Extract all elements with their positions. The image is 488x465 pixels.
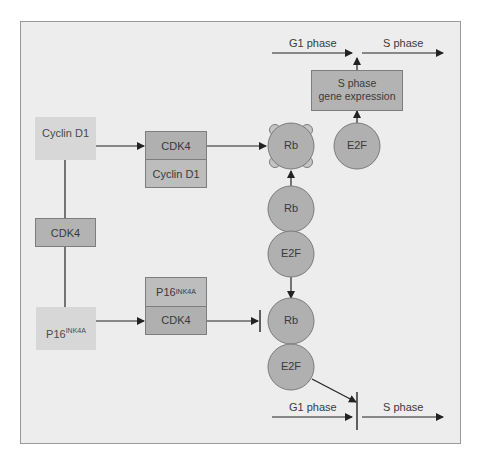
complex-cdk4-cell: CDK4: [146, 132, 206, 159]
top-g1-label: G1 phase: [289, 37, 337, 49]
cyclin-d1-box: Cyclin D1: [35, 117, 96, 160]
cyclin-d1-label: Cyclin D1: [42, 127, 89, 139]
rb-phosphorylated-label: Rb: [268, 139, 314, 151]
p16-label: P16INK4A: [46, 327, 86, 340]
rb-mid-label: Rb: [268, 202, 314, 214]
complex-cyclin-cell: Cyclin D1: [146, 159, 206, 187]
top-s-label: S phase: [383, 37, 423, 49]
gene-expression-line2: gene expression: [312, 90, 402, 103]
complex-p16-cell: P16INK4A: [146, 278, 206, 306]
e2f-mid-label: E2F: [268, 247, 314, 259]
complex-cdk4-cell-2: CDK4: [146, 306, 206, 335]
cdk4-cyclin-complex: CDK4 Cyclin D1: [145, 131, 207, 188]
cdk4-box: CDK4: [35, 218, 96, 247]
p16-box: P16INK4A: [36, 307, 96, 350]
e2f-bottom-label: E2F: [268, 360, 314, 372]
cdk4-label: CDK4: [51, 227, 80, 239]
gene-expression-box: S phase gene expression: [311, 70, 403, 111]
bottom-g1-label: G1 phase: [289, 401, 337, 413]
bottom-s-label: S phase: [383, 401, 423, 413]
e2f-free-label: E2F: [334, 139, 380, 151]
p16-cdk4-complex: P16INK4A CDK4: [145, 277, 207, 335]
rb-bottom-label: Rb: [268, 314, 314, 326]
gene-expression-line1: S phase: [312, 77, 402, 90]
arrow-e2f-to-block: [312, 379, 356, 402]
